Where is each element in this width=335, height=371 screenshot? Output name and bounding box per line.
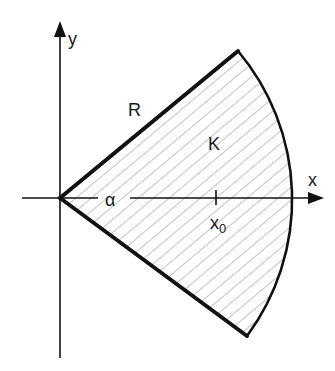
x0-main: x	[210, 213, 219, 233]
y-axis-label: y	[68, 29, 77, 49]
x-axis-label: x	[308, 170, 317, 190]
sector-region-k	[60, 51, 292, 336]
region-label: K	[208, 134, 220, 154]
radius-label: R	[128, 100, 141, 120]
x0-subscript: 0	[219, 221, 226, 236]
sector-diagram: y x R K α x0	[0, 0, 335, 371]
angle-label: α	[105, 190, 115, 210]
x-axis-arrow-icon	[308, 192, 324, 204]
y-axis-arrow-icon	[54, 21, 66, 37]
